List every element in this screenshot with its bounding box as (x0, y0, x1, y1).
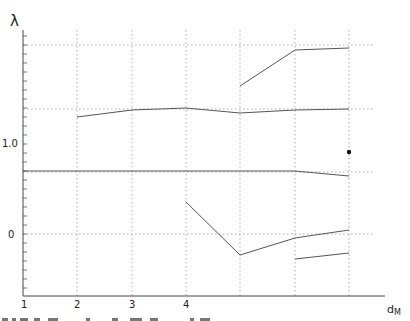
x-tick-label-1: 1 (21, 299, 27, 310)
series-branch-2 (77, 108, 349, 117)
x-tick-label-2: 2 (74, 299, 80, 310)
x-tick-label-4: 4 (183, 299, 189, 310)
x-gridlines (77, 30, 349, 296)
x-axis-label: dM (387, 303, 401, 317)
y-tick-label-0: 0 (8, 229, 14, 240)
y-gridlines (23, 45, 375, 234)
y-tick-label-1: 1.0 (2, 138, 18, 149)
x-tick-label-3: 3 (129, 299, 135, 310)
series-branch-1 (240, 48, 349, 86)
series-branch-5 (295, 253, 349, 259)
series-branch-4 (186, 202, 349, 255)
y-ticks (23, 36, 27, 288)
y-axis-label: λ (10, 12, 19, 30)
isolated-point (347, 150, 351, 154)
chart: λ 1.0 0 1 2 3 4 dM (0, 0, 410, 321)
